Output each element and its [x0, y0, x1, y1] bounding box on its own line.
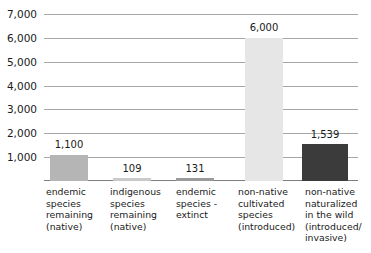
gridline-4000: [44, 86, 358, 87]
cat-line: indigenous: [110, 186, 172, 198]
y-axis-tick-label: 7,000: [0, 9, 37, 20]
cat-line: (introduced/: [305, 221, 369, 233]
cat-line: invasive): [305, 232, 369, 244]
cat-line: remaining: [110, 209, 172, 221]
x-axis-category-label-non-native-naturalized-in-the-wild: non-native naturalized in the wild (intr…: [305, 186, 369, 244]
cat-line: remaining: [46, 209, 104, 221]
bar-value-label: 109: [108, 164, 156, 174]
cat-line: species: [46, 198, 104, 210]
cat-line: species: [110, 198, 172, 210]
bar-non-native-naturalized-in-the-wild: [302, 144, 348, 181]
cat-line: species -: [176, 198, 232, 210]
x-axis-category-label-non-native-cultivated-species: non-native cultivated species (introduce…: [238, 186, 300, 232]
y-axis-tick-label: 2,000: [0, 128, 37, 139]
cat-line: naturalized: [305, 198, 369, 210]
gridline-7000: [44, 14, 358, 15]
y-axis-tick-label: 6,000: [0, 33, 37, 44]
bar-non-native-cultivated-species: [245, 38, 283, 181]
bar-value-label: 1,539: [301, 130, 349, 140]
cat-line: endemic: [176, 186, 232, 198]
cat-line: cultivated: [238, 198, 300, 210]
x-axis-category-label-indigenous-species-remaining: indigenous species remaining (native): [110, 186, 172, 232]
plot-area: 1,100 109 131 6,000 1,539: [44, 14, 358, 181]
bar-value-label: 6,000: [240, 23, 288, 33]
cat-line: non-native: [238, 186, 300, 198]
y-axis-tick-label: 3,000: [0, 104, 37, 115]
cat-line: (native): [110, 221, 172, 233]
gridline-5000: [44, 62, 358, 63]
bar-value-label: 1,100: [45, 140, 93, 150]
cat-line: endemic: [46, 186, 104, 198]
bar-indigenous-species-remaining: [113, 178, 151, 181]
gridline-3000: [44, 109, 358, 110]
cat-line: in the wild: [305, 209, 369, 221]
x-axis-category-label-endemic-species-remaining: endemic species remaining (native): [46, 186, 104, 232]
cat-line: extinct: [176, 209, 232, 221]
y-axis-tick-label: 1,000: [0, 152, 37, 163]
bar-endemic-species-extinct: [176, 178, 214, 181]
cat-line: species: [238, 209, 300, 221]
gridline-6000: [44, 38, 358, 39]
cat-line: non-native: [305, 186, 369, 198]
y-axis-tick-label: 4,000: [0, 81, 37, 92]
cat-line: (native): [46, 221, 104, 233]
bar-endemic-species-remaining: [50, 155, 88, 181]
bar-value-label: 131: [171, 164, 219, 174]
cat-line: (introduced): [238, 221, 300, 233]
x-axis-category-label-endemic-species-extinct: endemic species - extinct: [176, 186, 232, 221]
y-axis-tick-label: 5,000: [0, 57, 37, 68]
bar-chart: 7,000 6,000 5,000 4,000 3,000 2,000 1,00…: [0, 0, 371, 253]
